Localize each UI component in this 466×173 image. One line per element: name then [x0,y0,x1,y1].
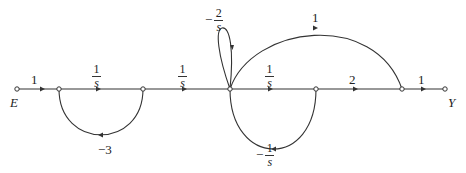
signal-flow-graph: E Y 1 2 1 1 −3 1 s 1 s 1 s − 2 s [0,0,466,173]
fraction-numerator: 1 [267,143,273,154]
arrow-icon [313,26,318,31]
gain-fraction-n1-n2: 1 s [92,64,101,88]
fraction-denominator: s [267,78,272,88]
fraction-numerator: 1 [94,64,100,75]
arrow-icon [421,87,426,92]
node-4 [314,87,318,91]
node-E [15,87,19,91]
gain-label-feedforward: 1 [312,11,319,24]
fraction-numerator: 2 [216,8,222,19]
fraction-denominator: s [94,78,99,88]
node-3 [228,87,232,91]
feedback-branch-minus3 [59,89,143,135]
fraction-denominator: s [268,157,273,167]
node-5 [400,87,404,91]
arrow-icon [40,87,45,92]
node-2 [141,87,145,91]
fraction-sign: − [256,147,263,163]
fraction-denominator: s [217,22,222,32]
node-1 [57,87,61,91]
node-Y [443,87,447,91]
fraction-denominator: s [180,78,185,88]
fraction-numerator: 1 [180,64,186,75]
node-label-E: E [10,96,18,109]
graph-canvas [0,0,466,173]
feedforward-branch-1 [230,35,402,89]
gain-fraction-feedback-minus1s: − 1 s [256,143,274,167]
arrow-icon [353,87,358,92]
node-label-Y: Y [448,96,455,109]
gain-fraction-n2-n3: 1 s [178,64,187,88]
feedback-branch-minus1s-arc [230,89,316,149]
fraction-sign: − [205,12,212,28]
gain-label-feedback-minus3: −3 [98,143,112,156]
self-loop-minus2s [218,28,231,89]
gain-label-E-n1: 1 [31,73,38,86]
gain-label-n4-n5: 2 [349,73,356,86]
gain-fraction-n3-n4: 1 s [265,64,274,88]
arrow-icon [98,133,103,138]
fraction-numerator: 1 [267,64,273,75]
gain-label-n5-Y: 1 [418,73,425,86]
gain-fraction-self-loop: − 2 s [205,8,223,32]
